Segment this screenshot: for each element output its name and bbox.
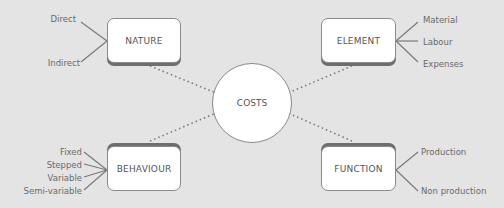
costs-circle: COSTS <box>212 63 292 143</box>
nature-box: NATURE <box>107 18 181 63</box>
function-box: FUNCTION <box>321 146 396 191</box>
behaviour-box: BEHAVIOUR <box>107 146 181 191</box>
nature-label: NATURE <box>125 36 162 46</box>
element-item-labour: Labour <box>423 37 452 47</box>
function-label: FUNCTION <box>334 164 382 174</box>
element-item-material: Material <box>423 15 458 25</box>
costs-label: COSTS <box>237 98 267 108</box>
function-item-production: Production <box>421 147 466 157</box>
nature-item-direct: Direct <box>51 14 76 24</box>
behaviour-item-variable: Variable <box>48 173 82 183</box>
element-item-expenses: Expenses <box>423 59 464 69</box>
element-label: ELEMENT <box>337 36 380 46</box>
behaviour-item-stepped: Stepped <box>47 160 82 170</box>
element-box: ELEMENT <box>321 18 396 63</box>
behaviour-item-fixed: Fixed <box>60 147 82 157</box>
behaviour-item-semi-variable: Semi-variable <box>24 186 82 196</box>
behaviour-label: BEHAVIOUR <box>117 164 172 174</box>
nature-item-indirect: Indirect <box>48 58 80 68</box>
function-item-non-production: Non production <box>421 186 486 196</box>
